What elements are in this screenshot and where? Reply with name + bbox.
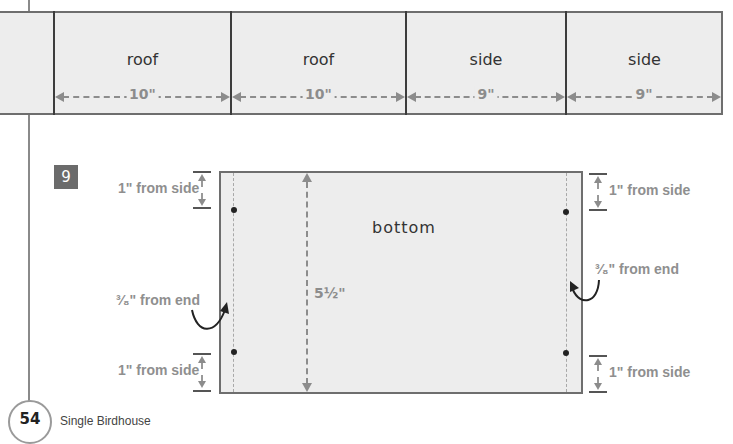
part-label-roof-1: roof	[55, 50, 230, 69]
running-footer-title: Single Birdhouse	[60, 414, 151, 428]
dimension-line-width	[306, 182, 308, 384]
dimension-roof-2: 10"	[232, 90, 405, 104]
curved-arrow-icon	[566, 276, 606, 312]
arrow-up-icon	[594, 358, 602, 365]
arrow-up-icon	[302, 173, 312, 182]
dimension-line	[597, 183, 599, 201]
tick-mark	[589, 391, 607, 393]
guide-line-left	[233, 173, 234, 392]
part-label-roof-2: roof	[232, 50, 405, 69]
arrow-down-icon	[302, 383, 312, 392]
tick-mark	[589, 355, 607, 357]
arrow-right-icon	[712, 92, 721, 102]
nail-hole-marker	[563, 209, 569, 215]
bottom-board	[219, 171, 583, 394]
arrow-up-icon	[198, 174, 206, 181]
dimension-line	[597, 365, 599, 383]
note-right-middle: ³⁄₈" from end	[595, 261, 679, 277]
tick-mark	[193, 171, 211, 173]
step-badge: 9	[54, 165, 78, 189]
arrow-down-icon	[198, 381, 206, 388]
arrow-right-icon	[221, 92, 230, 102]
arrow-up-icon	[594, 176, 602, 183]
tick-mark	[589, 209, 607, 211]
board-label-bottom: bottom	[372, 218, 436, 237]
nail-hole-marker	[231, 207, 237, 213]
part-label-side-1: side	[407, 50, 565, 69]
note-right-top: 1" from side	[609, 182, 690, 198]
nail-hole-marker	[231, 349, 237, 355]
arrow-right-icon	[396, 92, 405, 102]
note-right-bottom: 1" from side	[609, 364, 690, 380]
dimension-side-1: 9"	[407, 90, 565, 104]
dimension-side-2: 9"	[567, 90, 721, 104]
arrow-down-icon	[594, 201, 602, 208]
arrow-down-icon	[594, 383, 602, 390]
tick-mark	[193, 207, 211, 209]
arrow-right-icon	[556, 92, 565, 102]
dimension-line	[201, 363, 203, 381]
tick-mark	[589, 173, 607, 175]
dimension-roof-1: 10"	[55, 90, 230, 104]
arrow-up-icon	[198, 356, 206, 363]
note-left-bottom: 1" from side	[118, 362, 199, 378]
dimension-width-label: 5½"	[314, 285, 346, 301]
curved-arrow-icon	[185, 298, 230, 338]
tick-mark	[193, 353, 211, 355]
arrow-down-icon	[198, 199, 206, 206]
page-number: 54	[8, 400, 52, 444]
nail-hole-marker	[563, 350, 569, 356]
dimension-line	[201, 181, 203, 199]
note-left-top: 1" from side	[118, 180, 199, 196]
part-label-side-2: side	[567, 50, 722, 69]
tick-mark	[193, 390, 211, 392]
